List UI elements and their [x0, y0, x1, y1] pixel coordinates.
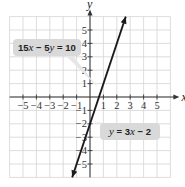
y-tick-label: −1	[76, 105, 87, 116]
equation-label-slope-intercept: y = 3x − 2	[100, 123, 160, 140]
coordinate-plane: xy −5−4−3−2−11234554321−1−2−3−4−5	[0, 0, 185, 187]
y-tick-label: 1	[82, 78, 87, 89]
x-tick-label: −3	[44, 100, 55, 111]
x-tick-label: −5	[17, 100, 28, 111]
x-axis-label: x	[180, 90, 185, 104]
equation-label-standard-form: 15x − 5y = 10	[13, 39, 81, 56]
x-tick-label: 5	[154, 100, 159, 111]
y-axis-label: y	[86, 0, 93, 11]
x-tick-label: 4	[141, 100, 147, 111]
y-tick-label: 4	[82, 38, 88, 49]
eq-rhs: − 2	[135, 126, 151, 137]
x-tick-label: 2	[114, 100, 119, 111]
y-tick-label: −2	[76, 118, 87, 129]
eq-coef: 15	[18, 42, 29, 53]
x-tick-label: 3	[128, 100, 133, 111]
eq-op: − 5	[33, 42, 49, 53]
y-tick-label: 3	[82, 51, 87, 62]
x-tick-label: −2	[58, 100, 69, 111]
x-tick-label: −4	[31, 100, 43, 111]
eq-mid: = 3	[114, 126, 130, 137]
x-axis-arrow-icon	[173, 95, 179, 100]
y-tick-label: 5	[82, 25, 87, 36]
x-tick-label: 1	[101, 100, 106, 111]
eq-rhs: = 10	[54, 42, 75, 53]
line-arrow-up-icon	[121, 17, 127, 25]
